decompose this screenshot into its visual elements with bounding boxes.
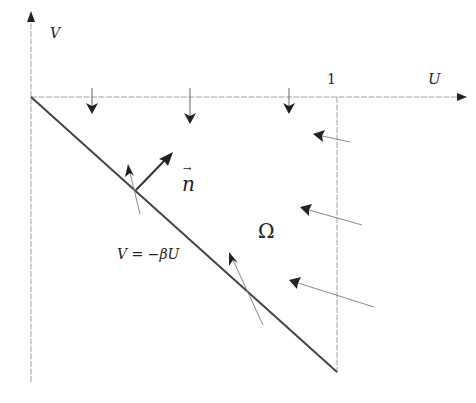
downward-arrows — [86, 88, 295, 124]
v-axis-arrowhead-icon — [27, 11, 35, 22]
boundary-line — [31, 97, 337, 372]
u-axis-label: U — [428, 70, 442, 88]
v-axis — [27, 11, 35, 382]
phase-plane-diagram: V U 1 → n Ω V = −βU — [0, 0, 476, 403]
region-label-omega: Ω — [258, 219, 275, 243]
u-axis — [31, 93, 467, 101]
crossing-arrow-icon — [229, 252, 263, 325]
left-arrow-icon — [313, 130, 350, 142]
normal-vector-label: n — [182, 172, 195, 196]
left-arrow-icon — [300, 204, 362, 225]
v-axis-label: V — [50, 25, 62, 41]
normal-vector — [136, 152, 173, 190]
u-axis-arrowhead-icon — [457, 93, 467, 101]
tick-label-one: 1 — [327, 71, 336, 87]
inflow-arrows — [289, 130, 374, 307]
left-arrow-icon — [289, 277, 374, 307]
down-arrow-icon — [283, 88, 295, 114]
down-arrow-icon — [86, 88, 98, 114]
boundary-equation-label: V = −βU — [117, 246, 181, 262]
down-arrow-icon — [184, 88, 196, 124]
